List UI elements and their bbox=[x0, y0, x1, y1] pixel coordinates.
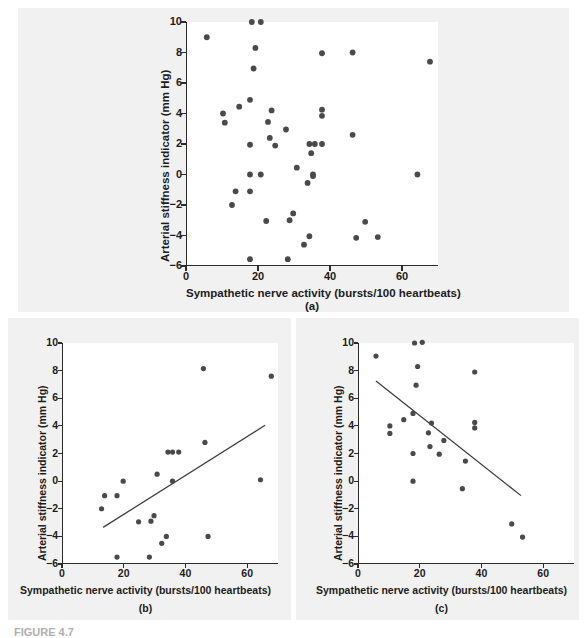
data-point bbox=[312, 141, 318, 147]
data-point bbox=[283, 127, 289, 133]
data-point bbox=[387, 423, 392, 428]
data-point bbox=[148, 519, 153, 524]
data-point bbox=[415, 172, 421, 178]
data-point bbox=[387, 431, 392, 436]
x-tick-mark bbox=[543, 564, 544, 568]
data-point bbox=[319, 113, 325, 119]
data-point bbox=[253, 45, 259, 51]
trendline bbox=[103, 425, 265, 527]
data-point bbox=[319, 50, 325, 56]
data-point bbox=[251, 66, 257, 72]
y-tick-label: 10 bbox=[328, 336, 354, 348]
data-point bbox=[353, 235, 359, 241]
data-point bbox=[472, 369, 477, 374]
data-point bbox=[410, 451, 415, 456]
data-point bbox=[155, 472, 160, 477]
figure-caption-label: FIGURE 4.7 bbox=[14, 626, 74, 638]
scatter-panel-a: 1086420−2−4−6 0204060 Sympathetic nerve … bbox=[0, 0, 587, 312]
x-tick-mark bbox=[329, 266, 330, 271]
y-tick-mark bbox=[354, 481, 358, 482]
data-point bbox=[151, 513, 156, 518]
y-tick-mark bbox=[181, 82, 186, 83]
y-axis-title-a: Arterial stiffness indicator (mm Hg) bbox=[159, 70, 171, 262]
data-point bbox=[164, 534, 169, 539]
data-point bbox=[319, 141, 325, 147]
data-point bbox=[205, 534, 210, 539]
data-point bbox=[102, 493, 107, 498]
x-tick-mark bbox=[357, 564, 358, 568]
y-tick-mark bbox=[181, 204, 186, 205]
x-tick-label: 20 bbox=[238, 270, 278, 282]
x-tick-label: 60 bbox=[382, 270, 422, 282]
y-tick-label: 8 bbox=[328, 364, 354, 376]
x-tick-mark bbox=[185, 564, 186, 568]
data-point bbox=[170, 479, 175, 484]
data-point bbox=[437, 452, 442, 457]
data-point bbox=[233, 188, 239, 194]
y-tick-mark bbox=[181, 174, 186, 175]
data-point bbox=[415, 364, 420, 369]
data-point bbox=[114, 493, 119, 498]
y-tick-mark bbox=[58, 508, 62, 509]
panel-letter-c: (c) bbox=[296, 602, 587, 614]
data-point bbox=[287, 217, 293, 223]
plot-area-b bbox=[62, 343, 278, 564]
data-point bbox=[463, 458, 468, 463]
x-tick-mark bbox=[61, 564, 62, 568]
y-tick-mark bbox=[354, 370, 358, 371]
x-tick-label: 20 bbox=[104, 567, 144, 579]
y-tick-mark bbox=[354, 398, 358, 399]
data-point bbox=[258, 477, 263, 482]
data-point bbox=[159, 541, 164, 546]
data-point bbox=[202, 440, 207, 445]
x-tick-label: 0 bbox=[338, 567, 378, 579]
y-tick-mark bbox=[354, 342, 358, 343]
y-tick-mark bbox=[58, 481, 62, 482]
data-point bbox=[220, 111, 226, 117]
data-point bbox=[413, 383, 418, 388]
y-tick-mark bbox=[354, 453, 358, 454]
y-tick-mark bbox=[58, 425, 62, 426]
data-point bbox=[249, 19, 255, 25]
y-tick-mark bbox=[58, 453, 62, 454]
x-tick-label: 60 bbox=[227, 567, 267, 579]
data-point bbox=[269, 374, 274, 379]
x-tick-label: 0 bbox=[42, 567, 82, 579]
data-point bbox=[258, 19, 264, 25]
data-point bbox=[310, 173, 316, 179]
data-point bbox=[472, 420, 477, 425]
y-tick-mark bbox=[181, 235, 186, 236]
data-point bbox=[305, 180, 311, 186]
data-point bbox=[229, 202, 235, 208]
data-point bbox=[285, 256, 291, 262]
scatter-panel-c: 1086420−2−4−6 0204060 Sympathetic nerve … bbox=[296, 318, 587, 638]
panel-letter-a: (a) bbox=[186, 300, 438, 312]
data-point bbox=[247, 97, 253, 103]
x-axis-title-a: Sympathetic nerve activity (bursts/100 h… bbox=[186, 287, 438, 299]
scatter-panel-b: 1086420−2−4−6 0204060 Sympathetic nerve … bbox=[0, 318, 291, 638]
data-point bbox=[307, 233, 313, 239]
data-point bbox=[441, 438, 446, 443]
data-point bbox=[520, 534, 525, 539]
x-tick-label: 20 bbox=[400, 567, 440, 579]
y-tick-mark bbox=[354, 425, 358, 426]
data-point bbox=[121, 479, 126, 484]
data-point bbox=[301, 242, 307, 248]
y-axis-title-c: Arterial stiffness indicator (mm Hg) bbox=[332, 385, 344, 561]
y-tick-mark bbox=[58, 398, 62, 399]
data-point bbox=[429, 421, 434, 426]
data-point bbox=[362, 219, 368, 225]
data-point bbox=[472, 425, 477, 430]
data-point bbox=[247, 256, 253, 262]
data-point bbox=[350, 50, 356, 56]
x-tick-mark bbox=[123, 564, 124, 568]
figure-caption: FIGURE 4.7 bbox=[14, 626, 574, 638]
data-point bbox=[410, 411, 415, 416]
x-tick-label: 40 bbox=[310, 270, 350, 282]
data-point bbox=[247, 172, 253, 178]
data-point bbox=[307, 141, 313, 147]
data-point bbox=[99, 506, 104, 511]
data-point bbox=[201, 366, 206, 371]
x-tick-label: 40 bbox=[165, 567, 205, 579]
data-point bbox=[290, 210, 296, 216]
